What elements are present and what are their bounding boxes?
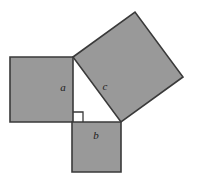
label-a: a: [60, 81, 66, 93]
label-b: b: [93, 129, 99, 141]
pythagorean-diagram: a c b: [0, 0, 197, 180]
geometry-figure: a c b: [0, 0, 197, 180]
label-c: c: [103, 80, 108, 92]
